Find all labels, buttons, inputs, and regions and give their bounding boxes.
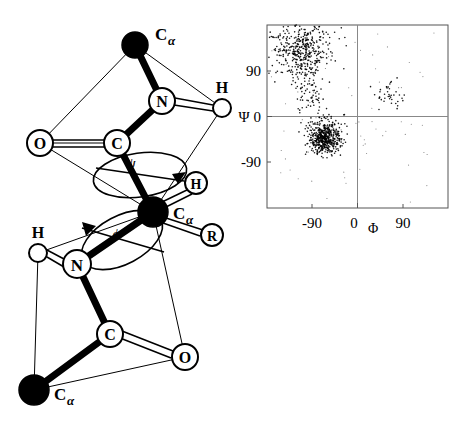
label-ca-top: C α (155, 25, 176, 48)
phi-rotation-arrowhead (82, 222, 96, 236)
label-n-bot: N (71, 256, 84, 275)
carbonyl-double-bond-lower (120, 331, 173, 358)
svg-text:C: C (173, 204, 185, 223)
svg-text:90: 90 (396, 215, 411, 231)
atom-ca-top (122, 32, 148, 58)
svg-text:C: C (155, 25, 167, 44)
atom-h-top (213, 99, 231, 117)
peptide-backbone-diagram: ψ ϕ (0, 0, 250, 431)
label-o-top: O (34, 135, 46, 152)
svg-text:α: α (168, 33, 176, 48)
molecule-svg: ψ ϕ (0, 0, 250, 431)
atom-ca-center (138, 197, 168, 227)
label-c-top: C (111, 135, 123, 152)
svg-text:α: α (186, 212, 194, 227)
label-ca-bot: C α (54, 385, 75, 408)
ramachandran-plot: -90 0 90 Φ 90 0 -90 Ψ (240, 0, 470, 250)
label-h-bot: H (32, 224, 45, 241)
svg-text:90: 90 (246, 63, 261, 79)
ramachandran-svg: -90 0 90 Φ 90 0 -90 Ψ (240, 0, 470, 250)
atom-h-bot (29, 244, 47, 262)
svg-text:-90: -90 (241, 154, 261, 170)
atom-labels: C α N H C O C α H R N H C O C α (32, 25, 229, 408)
phi-angle-label: ϕ (113, 226, 120, 241)
svg-text:C: C (54, 385, 66, 404)
label-n-top: N (156, 93, 168, 110)
figure-container: ψ ϕ (0, 0, 470, 431)
x-axis-tick-labels: -90 0 90 (302, 215, 411, 231)
svg-text:0: 0 (350, 215, 358, 231)
peptide-plane-outlines (34, 45, 222, 390)
psi-angle-label: ψ (126, 155, 136, 171)
atom-nodes (19, 32, 231, 405)
x-axis-label: Φ (368, 221, 378, 236)
label-r-center: R (207, 229, 218, 244)
label-h-center: H (191, 177, 202, 192)
svg-text:0: 0 (254, 109, 262, 125)
label-o-bot: O (179, 349, 191, 366)
svg-text:-90: -90 (302, 215, 322, 231)
amide-nh-bond-upper (174, 98, 213, 111)
y-axis-label: Ψ (238, 109, 250, 125)
label-h-top: H (216, 79, 229, 96)
svg-text:α: α (67, 393, 75, 408)
amide-nh-bond-lower (47, 250, 64, 267)
label-c-bot: C (104, 326, 116, 343)
atom-ca-bot (19, 375, 49, 405)
